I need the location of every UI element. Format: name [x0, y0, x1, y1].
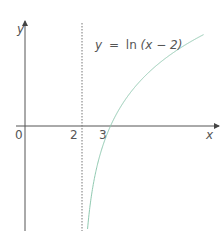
x-axis-label: x — [205, 128, 214, 142]
tick-label-3: 3 — [99, 128, 107, 142]
graph: y x 0 2 3 y = ln (x − 2) — [0, 0, 224, 236]
tick-label-2: 2 — [70, 128, 78, 142]
tick-label-0: 0 — [15, 128, 23, 142]
y-axis-label: y — [16, 22, 25, 36]
equation-label: y = ln (x − 2) — [94, 38, 182, 52]
